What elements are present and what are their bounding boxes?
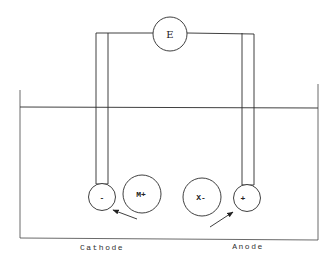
container <box>20 84 318 240</box>
electrolysis-diagram: E - + M+ X- Cathode Anode <box>0 0 334 261</box>
arrow-anion-to-anode <box>210 212 233 227</box>
wire-right <box>187 33 254 34</box>
anode-electrode: + <box>234 33 261 212</box>
cathode-caption: Cathode <box>80 243 124 252</box>
anion: X- <box>183 178 221 216</box>
meter-label: E <box>166 29 173 40</box>
anode-caption: Anode <box>232 242 264 251</box>
cathode-electrode: - <box>89 33 116 211</box>
anode-terminal-circle <box>234 185 261 212</box>
cation: M+ <box>123 175 161 213</box>
meter: E <box>153 17 187 51</box>
cathode-sign: - <box>100 193 105 202</box>
anode-sign: + <box>241 194 246 203</box>
cation-label: M+ <box>136 190 146 199</box>
container-bottom <box>20 238 318 240</box>
liquid-surface-line <box>20 107 318 108</box>
anion-label: X- <box>196 193 206 202</box>
